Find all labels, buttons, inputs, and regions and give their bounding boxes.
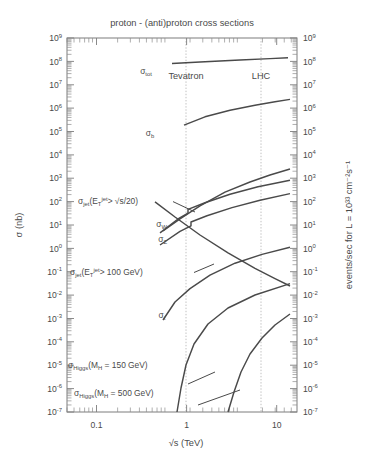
y-tick-left-5: 104	[49, 149, 63, 160]
y-tick-left-13: 10-4	[47, 336, 63, 347]
label-sigma-z: σZ	[158, 234, 167, 245]
y-tick-left-1: 108	[49, 56, 63, 67]
y-tick-left-8: 101	[49, 220, 62, 231]
y-tick-left-14: 10-5	[47, 360, 63, 371]
y-tick-right-11: 10-2	[303, 290, 318, 301]
y-tick-right-7: 102	[303, 196, 316, 207]
plot-canvas: proton - (anti)proton cross sections Tev…	[0, 0, 367, 462]
y-tick-right-0: 109	[303, 33, 316, 44]
chart-title: proton - (anti)proton cross sections	[110, 18, 254, 28]
curve-sigma-b	[184, 99, 290, 125]
y-axis-label-right: events/sec for L = 10³³ cm⁻²s⁻¹	[344, 161, 354, 289]
plot-frame	[67, 38, 297, 412]
label-sigma-t: σt	[159, 310, 166, 321]
y-tick-left-4: 105	[49, 126, 63, 137]
data-curves	[155, 58, 290, 412]
y-tick-left-9: 100	[49, 243, 63, 254]
y-tick-right-9: 100	[303, 243, 317, 254]
x-axis-label: √s (TeV)	[169, 438, 204, 448]
y-tick-right-3: 106	[303, 103, 317, 114]
label-sigma-b: σb	[146, 128, 155, 139]
y-axis-right-minor-ticks	[293, 39, 298, 405]
y-tick-left-11: 10-2	[47, 290, 62, 301]
y-tick-left-2: 107	[49, 79, 62, 90]
x-axis-labels: 0.1 1 10	[91, 420, 282, 430]
curve-sigma-tot	[172, 58, 288, 64]
leader-jet-100	[194, 264, 214, 273]
lhc-label: LHC	[252, 71, 271, 81]
y-tick-right-14: 10-5	[303, 360, 319, 371]
y-tick-right-5: 104	[303, 149, 317, 160]
y-axis-label-left: σ (nb)	[14, 213, 24, 238]
curve-sigma-jet-100	[155, 202, 290, 286]
y-axis-left-labels: 10910810710610510410310210110010-110-210…	[47, 33, 63, 418]
curve-sigma-w	[160, 180, 290, 233]
y-tick-right-6: 103	[303, 173, 317, 184]
y-tick-right-12: 10-3	[303, 313, 319, 324]
label-leader-lines	[173, 202, 240, 405]
label-sigma-tot: σtot	[140, 66, 152, 77]
y-tick-right-8: 101	[303, 220, 316, 231]
y-tick-left-15: 10-6	[47, 383, 63, 394]
x-tick-1: 1	[184, 420, 189, 430]
x-tick-2: 10	[272, 420, 282, 430]
label-sigma-higgs-500: σHiggs(MH = 500 GeV)	[74, 388, 154, 399]
y-axis-left-minor-ticks	[67, 39, 72, 405]
leader-higgs-150	[188, 372, 215, 384]
y-tick-right-15: 10-6	[303, 383, 319, 394]
leader-higgs-500	[198, 390, 240, 405]
curve-sigma-higgs-500	[228, 314, 290, 412]
x-tick-0: 0.1	[91, 420, 103, 430]
cross-section-figure: proton - (anti)proton cross sections Tev…	[0, 0, 367, 462]
y-tick-left-16: 10-7	[47, 407, 62, 418]
tevatron-label: Tevatron	[168, 71, 203, 81]
x-axis-minor-ticks	[67, 38, 291, 412]
y-tick-right-1: 108	[303, 56, 317, 67]
y-tick-right-2: 107	[303, 79, 316, 90]
y-tick-right-13: 10-4	[303, 336, 319, 347]
y-tick-left-10: 10-1	[47, 266, 62, 277]
label-sigma-w: σW	[156, 219, 167, 230]
y-tick-left-0: 109	[49, 33, 62, 44]
y-tick-left-6: 103	[49, 173, 63, 184]
y-tick-left-12: 10-3	[47, 313, 63, 324]
leader-jet-sqrts	[173, 202, 195, 212]
label-sigma-higgs-150: σHiggs(MH = 150 GeV)	[68, 360, 148, 371]
label-sigma-jet-100: σjet(ETjet> 100 GeV)	[70, 267, 143, 279]
y-tick-right-10: 10-1	[303, 266, 318, 277]
y-tick-left-3: 106	[49, 103, 63, 114]
label-sigma-jet-sqrts: σjet(ETjet> √s/20)	[78, 196, 138, 208]
y-tick-right-4: 105	[303, 126, 317, 137]
y-axis-right-labels: 10910810710610510410310210110010-110-210…	[303, 33, 319, 418]
y-tick-left-7: 102	[49, 196, 62, 207]
y-tick-right-16: 10-7	[303, 407, 318, 418]
